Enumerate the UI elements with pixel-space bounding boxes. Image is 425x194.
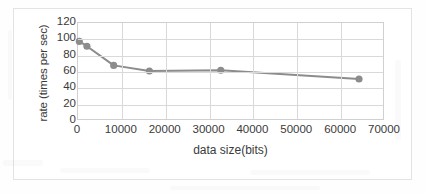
x-tick-label: 60000 [324, 124, 356, 136]
y-tick-label: 40 [50, 82, 76, 94]
data-point-marker [146, 67, 153, 74]
x-axis-title: data size(bits) [77, 143, 384, 157]
gridline-vertical [297, 23, 298, 119]
y-tick-label: 80 [50, 49, 76, 61]
x-tick-label: 10000 [105, 124, 137, 136]
x-axis-tick-labels: 010000200003000040000500006000070000 [77, 124, 384, 138]
gridline-vertical [253, 23, 254, 119]
data-point-marker [110, 62, 117, 69]
gridline-vertical [166, 23, 167, 119]
gridline-horizontal [78, 72, 383, 73]
plot-area [77, 22, 384, 120]
data-point-marker [355, 75, 362, 82]
x-tick-label: 20000 [149, 124, 181, 136]
gridline-vertical [341, 23, 342, 119]
gridline-vertical [122, 23, 123, 119]
gridline-horizontal [78, 105, 383, 106]
y-tick-label: 20 [50, 98, 76, 110]
y-tick-label: 100 [50, 33, 76, 45]
scan-artifact [60, 168, 150, 173]
y-tick-label: 60 [50, 65, 76, 77]
y-axis-title: rate (times per sec) [37, 13, 49, 133]
scan-artifact [250, 170, 370, 175]
chart-plot-wrapper: rate (times per sec) 020406080100120 010… [14, 9, 413, 181]
gridline-horizontal [78, 88, 383, 89]
x-tick-label: 30000 [193, 124, 225, 136]
gridline-horizontal [78, 56, 383, 57]
y-axis-tick-labels: 020406080100120 [50, 22, 76, 120]
scan-artifact [3, 160, 43, 166]
y-tick-label: 0 [50, 114, 76, 126]
scan-artifact [170, 186, 320, 190]
data-point-marker [83, 43, 90, 50]
chart-frame: rate (times per sec) 020406080100120 010… [13, 8, 412, 180]
scan-artifact [8, 30, 12, 100]
x-tick-label: 40000 [236, 124, 268, 136]
gridline-vertical [210, 23, 211, 119]
y-tick-label: 120 [50, 16, 76, 28]
gridline-horizontal [78, 39, 383, 40]
x-tick-label: 0 [74, 124, 80, 136]
x-tick-label: 50000 [280, 124, 312, 136]
scan-artifact [395, 60, 401, 140]
